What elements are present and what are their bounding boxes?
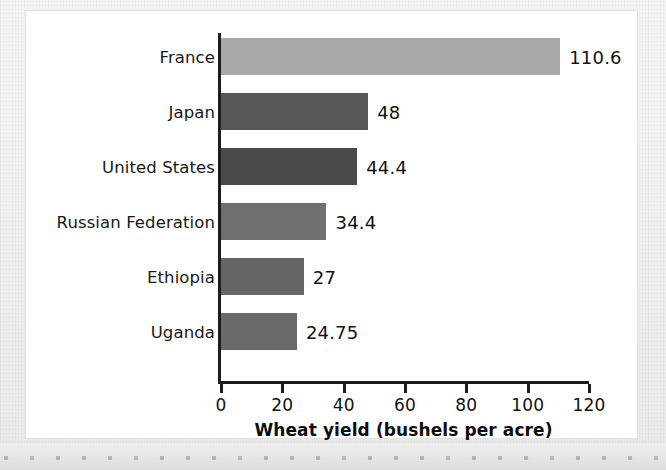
- x-tick-mark: [343, 384, 346, 393]
- x-tick-mark: [588, 384, 591, 393]
- x-tick-mark: [404, 384, 407, 393]
- bar-value-label: 24.75: [306, 321, 359, 342]
- bar-row: Japan48: [26, 93, 637, 130]
- x-tick-label: 40: [333, 395, 355, 415]
- x-tick-mark: [465, 384, 468, 393]
- bar-row: Russian Federation34.4: [26, 203, 637, 240]
- x-tick-label: 100: [511, 395, 544, 415]
- figure-panel: France110.6Japan48United States44.4Russi…: [26, 11, 637, 438]
- y-axis-line: [218, 33, 221, 383]
- x-axis-title: Wheat yield (bushels per acre): [218, 420, 589, 440]
- bar-row: United States44.4: [26, 148, 637, 185]
- bar: [221, 258, 304, 295]
- bar-value-label: 34.4: [335, 211, 376, 232]
- bar: [221, 203, 326, 240]
- bar-category-label: Japan: [168, 102, 215, 121]
- bar-row: Ethiopia27: [26, 258, 637, 295]
- bar: [221, 148, 357, 185]
- scanned-page: France110.6Japan48United States44.4Russi…: [0, 0, 666, 470]
- bar: [221, 313, 297, 350]
- x-tick-label: 0: [215, 395, 226, 415]
- bar-value-label: 48: [377, 101, 400, 122]
- bar-value-label: 110.6: [569, 46, 622, 67]
- bar-series: France110.6Japan48United States44.4Russi…: [26, 11, 637, 383]
- bar-row: Uganda24.75: [26, 313, 637, 350]
- bar: [221, 93, 368, 130]
- x-tick-mark: [527, 384, 530, 393]
- bar-category-label: United States: [102, 157, 215, 176]
- x-tick-label: 60: [394, 395, 416, 415]
- bar-row: France110.6: [26, 38, 637, 75]
- scanner-dot-strip: [0, 444, 666, 470]
- bar-category-label: Uganda: [151, 322, 215, 341]
- bar-category-label: Russian Federation: [57, 212, 215, 231]
- x-tick-label: 80: [455, 395, 477, 415]
- bar: [221, 38, 560, 75]
- bar-chart: France110.6Japan48United States44.4Russi…: [26, 11, 637, 438]
- bar-value-label: 44.4: [366, 156, 407, 177]
- bar-category-label: France: [160, 47, 215, 66]
- x-tick-label: 20: [271, 395, 293, 415]
- bar-category-label: Ethiopia: [147, 267, 215, 286]
- x-tick-mark: [281, 384, 284, 393]
- bar-value-label: 27: [313, 266, 336, 287]
- x-tick-mark: [220, 384, 223, 393]
- x-tick-label: 120: [572, 395, 605, 415]
